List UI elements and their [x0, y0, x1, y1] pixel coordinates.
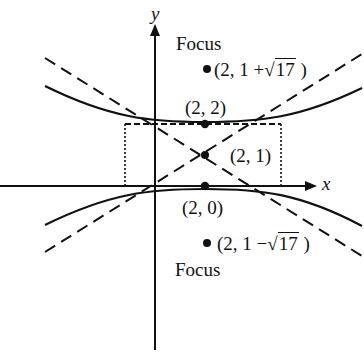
focus-top-radicand: 17 — [275, 58, 296, 80]
y-axis-label: y — [151, 4, 159, 23]
vertex-top-label: (2, 2) — [185, 98, 226, 117]
focus-top-suffix: ) — [300, 59, 306, 80]
focus-bottom-suffix: ) — [303, 233, 309, 254]
focus-top-point — [203, 65, 211, 73]
focus-bottom-coordinates: (2, 1 −√17 ) — [217, 234, 310, 253]
hyperbola-diagram: y x Focus (2, 1 +√17 ) (2, 2) (2, 1) (2,… — [0, 0, 364, 353]
focus-bottom-title: Focus — [175, 260, 220, 279]
center-label: (2, 1) — [230, 146, 271, 165]
focus-bottom-radicand: 17 — [278, 232, 299, 254]
sqrt-symbol: √ — [267, 233, 277, 254]
focus-top-coordinates: (2, 1 +√17 ) — [214, 60, 307, 79]
sqrt-symbol: √ — [264, 59, 274, 80]
vertex-bottom-label: (2, 0) — [182, 198, 223, 217]
focus-top-prefix: (2, 1 + — [214, 59, 264, 80]
center-point — [201, 151, 209, 159]
vertex-bottom-point — [201, 182, 209, 190]
sqrt-expression: √17 — [267, 234, 298, 253]
x-axis-label: x — [322, 174, 330, 193]
focus-bottom-prefix: (2, 1 − — [217, 233, 267, 254]
vertex-top-point — [201, 120, 209, 128]
focus-top-title: Focus — [176, 34, 221, 53]
focus-bottom-point — [203, 239, 211, 247]
sqrt-expression: √17 — [264, 60, 295, 79]
